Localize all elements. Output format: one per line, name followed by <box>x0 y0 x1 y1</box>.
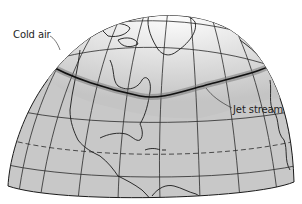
cold-air-label: Cold air <box>13 30 51 40</box>
globe-diagram: Cold air Jet stream <box>0 0 302 204</box>
globe-body <box>8 8 300 198</box>
cold-air-leader <box>50 36 60 50</box>
jet-stream-label: Jet stream <box>233 105 283 115</box>
